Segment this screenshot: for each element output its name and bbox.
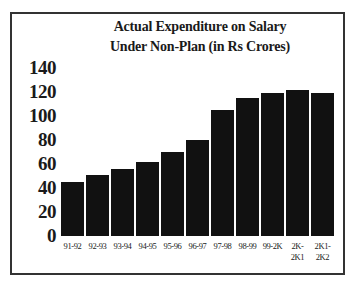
y-tick-label: 140	[14, 58, 56, 78]
x-tick-label-line: 93-94	[110, 241, 135, 252]
x-tick-label-line: 2K-	[285, 241, 310, 252]
x-tick-label-line: 2K1	[285, 252, 310, 263]
x-tick-label-line: 96-97	[185, 241, 210, 252]
bar-2K-2K1	[286, 90, 309, 236]
bar-2K1-2K2	[311, 93, 334, 236]
bar-92-93	[86, 175, 109, 236]
x-tick-label-line: 95-96	[160, 241, 185, 252]
bar-93-94	[111, 169, 134, 236]
x-tick-label: 2K1-2K2	[310, 241, 335, 263]
y-tick-label: 40	[14, 178, 56, 198]
x-tick-label-line: 92-93	[85, 241, 110, 252]
x-tick-label-line: 97-98	[210, 241, 235, 252]
x-tick-label-line: 2K2	[310, 252, 335, 263]
y-tick-label: 80	[14, 130, 56, 150]
chart-title-line-2: Under Non-Plan (in Rs Crores)	[60, 39, 340, 55]
bar-91-92	[61, 182, 84, 236]
bar-99-2K	[261, 93, 284, 236]
x-tick-label: 96-97	[185, 241, 210, 252]
x-tick-label: 92-93	[85, 241, 110, 252]
x-tick-label-line: 2K1-	[310, 241, 335, 252]
y-tick-label: 120	[14, 82, 56, 102]
x-tick-label: 93-94	[110, 241, 135, 252]
x-tick-label: 97-98	[210, 241, 235, 252]
x-tick-label-line: 99-2K	[260, 241, 285, 252]
y-tick-label: 60	[14, 154, 56, 174]
x-tick-label: 99-2K	[260, 241, 285, 252]
y-tick-label: 100	[14, 106, 56, 126]
x-tick-label-line: 91-92	[60, 241, 85, 252]
x-tick-label: 2K-2K1	[285, 241, 310, 263]
x-tick-label: 98-99	[235, 241, 260, 252]
x-tick-label: 95-96	[160, 241, 185, 252]
y-tick-label: 20	[14, 202, 56, 222]
bar-97-98	[211, 110, 234, 236]
x-tick-label: 94-95	[135, 241, 160, 252]
x-tick-label: 91-92	[60, 241, 85, 252]
bar-96-97	[186, 140, 209, 236]
bar-95-96	[161, 152, 184, 236]
x-tick-label-line: 98-99	[235, 241, 260, 252]
y-tick-label: 0	[14, 226, 56, 246]
x-tick-label-line: 94-95	[135, 241, 160, 252]
bar-98-99	[236, 98, 259, 236]
chart-title-line-1: Actual Expenditure on Salary	[60, 19, 340, 35]
bar-94-95	[136, 162, 159, 236]
